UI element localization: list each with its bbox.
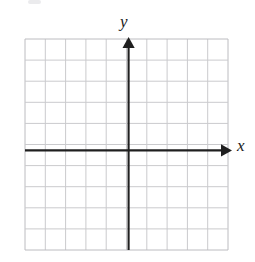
x-axis-label: x bbox=[237, 137, 245, 154]
coordinate-grid-svg bbox=[0, 0, 255, 262]
x-axis-arrowhead-icon bbox=[221, 144, 232, 156]
y-axis-label: y bbox=[120, 13, 128, 30]
y-axis bbox=[123, 37, 135, 250]
coordinate-plane-figure: y x bbox=[0, 0, 255, 262]
